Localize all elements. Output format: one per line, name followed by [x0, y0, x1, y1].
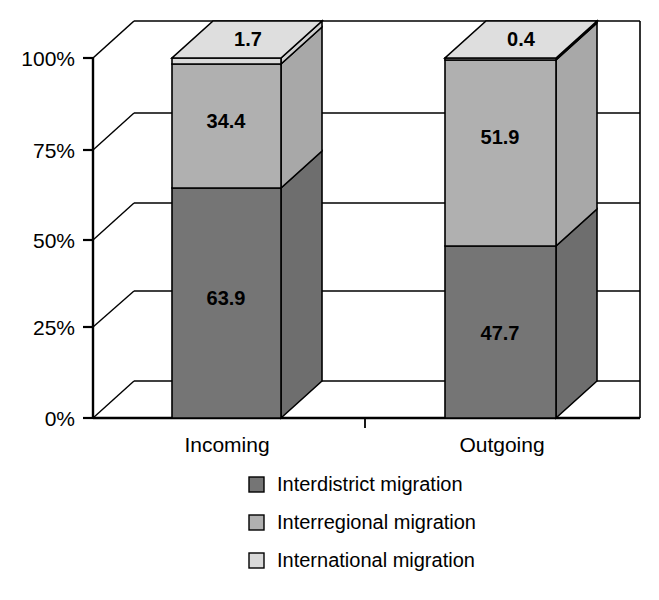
bar-value-outgoing-interregional: 51.9: [481, 126, 520, 148]
stacked-3d-bar-chart: 100% 75% 50% 25% 0% 63.9 34.4 1.7: [0, 0, 659, 600]
chart-legend: Interdistrict migration Interregional mi…: [249, 473, 476, 571]
y-axis-label-100: 100%: [21, 47, 75, 70]
bar-value-outgoing-interdistrict: 47.7: [481, 322, 520, 344]
y-axis-label-0: 0%: [45, 407, 75, 430]
y-axis-label-75: 75%: [33, 139, 75, 162]
category-label-outgoing: Outgoing: [459, 433, 544, 456]
bar-incoming-interdistrict-side: [281, 151, 322, 418]
y-axis-label-25: 25%: [33, 316, 75, 339]
bar-incoming-international-front: [172, 58, 281, 64]
legend-label-interdistrict: Interdistrict migration: [277, 473, 463, 495]
bar-value-incoming-interdistrict: 63.9: [207, 287, 246, 309]
depth-connector-25: [93, 291, 134, 327]
chart-container: 100% 75% 50% 25% 0% 63.9 34.4 1.7: [0, 0, 659, 600]
bar-value-outgoing-international: 0.4: [507, 28, 536, 50]
legend-swatch-international: [249, 553, 264, 568]
y-axis-ticks: [83, 58, 93, 418]
bar-value-incoming-interregional: 34.4: [207, 110, 247, 132]
bar-group-outgoing[interactable]: 47.7 51.9 0.4: [445, 21, 597, 418]
depth-connector-100: [93, 21, 134, 58]
depth-connector-0: [93, 381, 134, 418]
legend-item-interdistrict[interactable]: Interdistrict migration: [249, 473, 463, 495]
bar-group-incoming[interactable]: 63.9 34.4 1.7: [172, 21, 322, 418]
legend-item-international[interactable]: International migration: [249, 549, 475, 571]
bar-value-incoming-international: 1.7: [234, 28, 262, 50]
bar-outgoing-interregional-front: [445, 60, 556, 246]
legend-label-interregional: Interregional migration: [277, 511, 476, 533]
depth-connector-75: [93, 113, 134, 150]
legend-item-interregional[interactable]: Interregional migration: [249, 511, 476, 533]
category-label-incoming: Incoming: [184, 433, 269, 456]
legend-label-international: International migration: [277, 549, 475, 571]
y-axis-tick-labels: 100% 75% 50% 25% 0%: [21, 47, 75, 430]
depth-connector-50: [93, 203, 134, 240]
y-axis-label-50: 50%: [33, 229, 75, 252]
bar-outgoing-interregional-side: [556, 23, 597, 246]
legend-swatch-interregional: [249, 515, 264, 530]
x-axis-category-labels: Incoming Outgoing: [184, 433, 544, 456]
legend-swatch-interdistrict: [249, 477, 264, 492]
